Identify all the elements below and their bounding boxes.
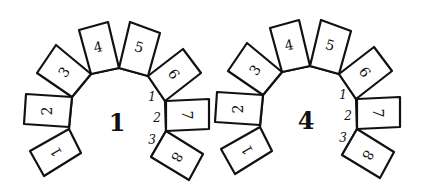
card-3: 3 — [37, 45, 91, 97]
svg-text:7: 7 — [370, 109, 386, 118]
hinge-label-1: 1 — [339, 88, 347, 102]
figure-label: 1 — [109, 108, 126, 137]
figure-1: 1 2 3 4 5 6 7 8 1 2 3 — [24, 22, 209, 180]
hinge-label-3: 3 — [148, 133, 156, 147]
card-8: 8 — [151, 131, 203, 180]
diagram: 1 2 3 4 5 6 7 8 1 2 3 — [0, 0, 423, 193]
svg-text:7: 7 — [179, 111, 195, 120]
card-4: 4 — [270, 20, 310, 72]
figure-label: 4 — [298, 106, 315, 135]
card-8: 8 — [342, 129, 394, 178]
hinge-label-2: 2 — [152, 111, 161, 125]
hinge-label-2: 2 — [343, 109, 352, 123]
card-5: 5 — [119, 22, 160, 76]
card-1: 1 — [221, 127, 272, 174]
card-3: 3 — [228, 43, 282, 95]
card-2: 2 — [24, 94, 72, 127]
card-1: 1 — [30, 129, 81, 176]
card-4: 4 — [79, 22, 119, 74]
svg-text:2: 2 — [39, 107, 55, 116]
card-6: 6 — [148, 49, 201, 101]
card-7: 7 — [357, 97, 400, 129]
hinge-label-1: 1 — [148, 90, 156, 104]
svg-text:2: 2 — [230, 105, 246, 114]
card-6: 6 — [339, 47, 392, 99]
card-5: 5 — [310, 20, 351, 74]
hinge-label-3: 3 — [339, 131, 347, 145]
card-2: 2 — [215, 92, 263, 125]
card-7: 7 — [166, 99, 209, 131]
figure-4: 1 2 3 4 5 6 7 8 1 2 3 — [215, 20, 400, 178]
